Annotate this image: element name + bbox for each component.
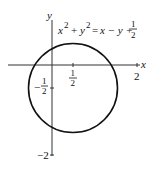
svg-text:2: 2 xyxy=(71,78,76,88)
y-tick-label-neg-two: −2 xyxy=(37,149,49,161)
svg-text:y: y xyxy=(79,24,85,36)
svg-text:1: 1 xyxy=(71,68,76,78)
svg-text:1: 1 xyxy=(42,76,47,86)
svg-text:x − y +: x − y + xyxy=(99,24,133,36)
svg-text:−: − xyxy=(34,81,40,93)
x-tick-label-half: 1 2 xyxy=(69,68,77,88)
y-axis-label: y xyxy=(46,9,52,21)
svg-text:2: 2 xyxy=(86,20,91,30)
svg-text:=: = xyxy=(92,24,98,36)
y-tick-label-neg-half: − 1 2 xyxy=(34,76,48,96)
svg-text:2: 2 xyxy=(131,30,136,40)
circle-graph: y x 1 2 2 − 1 2 −2 x 2 + y 2 = x − y + 1… xyxy=(0,0,154,169)
svg-text:2: 2 xyxy=(64,20,69,30)
x-tick-label-two: 2 xyxy=(134,70,140,82)
x-axis-label: x xyxy=(140,58,146,70)
svg-text:x: x xyxy=(57,24,63,36)
svg-text:+: + xyxy=(71,24,77,36)
svg-text:2: 2 xyxy=(42,86,47,96)
svg-text:1: 1 xyxy=(131,19,136,29)
equation-label: x 2 + y 2 = x − y + 1 2 xyxy=(57,19,137,40)
